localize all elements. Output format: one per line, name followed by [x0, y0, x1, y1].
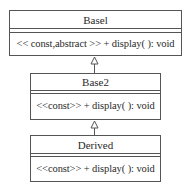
- generalization-arrow-base2-to-basel: [91, 57, 98, 73]
- generalization-arrow-derived-to-base2: [91, 121, 98, 135]
- generalization-arrows: [0, 0, 187, 192]
